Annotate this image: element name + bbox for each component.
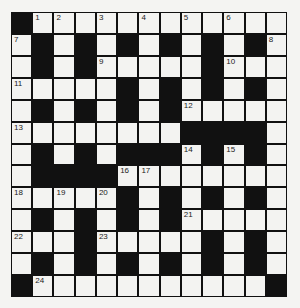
grid-cell[interactable]: 15 — [224, 145, 243, 165]
grid-cell[interactable]: 23 — [97, 232, 116, 252]
grid-cell[interactable]: 20 — [97, 188, 116, 208]
grid-cell[interactable] — [246, 101, 265, 121]
grid-cell[interactable] — [54, 145, 73, 165]
grid-cell[interactable] — [54, 210, 73, 230]
grid-cell[interactable] — [161, 276, 180, 296]
grid-cell[interactable] — [12, 145, 31, 165]
grid-cell[interactable] — [182, 276, 201, 296]
grid-cell[interactable] — [54, 57, 73, 77]
grid-cell[interactable] — [33, 123, 52, 143]
grid-cell[interactable] — [267, 79, 286, 99]
grid-cell[interactable] — [182, 188, 201, 208]
grid-cell[interactable]: 11 — [12, 79, 31, 99]
grid-cell[interactable] — [246, 57, 265, 77]
grid-cell[interactable] — [54, 254, 73, 274]
grid-cell[interactable] — [224, 35, 243, 55]
grid-cell[interactable]: 13 — [12, 123, 31, 143]
grid-cell[interactable] — [139, 123, 158, 143]
grid-cell[interactable] — [118, 276, 137, 296]
grid-cell[interactable] — [118, 123, 137, 143]
grid-cell[interactable]: 9 — [97, 57, 116, 77]
grid-cell[interactable] — [182, 254, 201, 274]
grid-cell[interactable] — [139, 101, 158, 121]
grid-cell[interactable]: 22 — [12, 232, 31, 252]
grid-cell[interactable] — [224, 188, 243, 208]
grid-cell[interactable] — [139, 35, 158, 55]
grid-cell[interactable] — [161, 123, 180, 143]
grid-cell[interactable] — [267, 254, 286, 274]
grid-cell[interactable] — [118, 57, 137, 77]
grid-cell[interactable] — [224, 166, 243, 186]
grid-cell[interactable]: 1 — [33, 13, 52, 33]
grid-cell[interactable] — [267, 145, 286, 165]
grid-cell[interactable] — [267, 188, 286, 208]
grid-cell[interactable] — [203, 166, 222, 186]
grid-cell[interactable] — [161, 166, 180, 186]
grid-cell[interactable] — [12, 254, 31, 274]
grid-cell[interactable] — [139, 254, 158, 274]
grid-cell[interactable]: 19 — [54, 188, 73, 208]
grid-cell[interactable]: 4 — [139, 13, 158, 33]
grid-cell[interactable] — [12, 166, 31, 186]
grid-cell[interactable] — [203, 276, 222, 296]
grid-cell[interactable] — [54, 101, 73, 121]
grid-cell[interactable] — [76, 123, 95, 143]
grid-cell[interactable] — [224, 232, 243, 252]
grid-cell[interactable]: 3 — [97, 13, 116, 33]
grid-cell[interactable] — [182, 79, 201, 99]
grid-cell[interactable] — [97, 123, 116, 143]
grid-cell[interactable]: 7 — [12, 35, 31, 55]
grid-cell[interactable] — [267, 166, 286, 186]
grid-cell[interactable] — [12, 57, 31, 77]
grid-cell[interactable]: 18 — [12, 188, 31, 208]
grid-cell[interactable] — [246, 210, 265, 230]
grid-cell[interactable] — [224, 79, 243, 99]
grid-cell[interactable] — [139, 276, 158, 296]
grid-cell[interactable]: 14 — [182, 145, 201, 165]
grid-cell[interactable] — [33, 232, 52, 252]
grid-cell[interactable] — [224, 101, 243, 121]
grid-cell[interactable]: 16 — [118, 166, 137, 186]
grid-cell[interactable] — [267, 232, 286, 252]
grid-cell[interactable] — [97, 254, 116, 274]
grid-cell[interactable] — [76, 276, 95, 296]
grid-cell[interactable] — [267, 13, 286, 33]
grid-cell[interactable] — [224, 210, 243, 230]
grid-cell[interactable] — [12, 101, 31, 121]
grid-cell[interactable] — [224, 254, 243, 274]
grid-cell[interactable] — [203, 210, 222, 230]
grid-cell[interactable]: 8 — [267, 35, 286, 55]
grid-cell[interactable] — [54, 79, 73, 99]
grid-cell[interactable] — [182, 57, 201, 77]
grid-cell[interactable]: 5 — [182, 13, 201, 33]
grid-cell[interactable]: 17 — [139, 166, 158, 186]
grid-cell[interactable] — [12, 210, 31, 230]
grid-cell[interactable]: 2 — [54, 13, 73, 33]
grid-cell[interactable] — [161, 13, 180, 33]
grid-cell[interactable] — [97, 210, 116, 230]
grid-cell[interactable] — [54, 35, 73, 55]
grid-cell[interactable] — [161, 232, 180, 252]
grid-cell[interactable] — [139, 232, 158, 252]
grid-cell[interactable]: 24 — [33, 276, 52, 296]
grid-cell[interactable] — [118, 13, 137, 33]
grid-cell[interactable] — [267, 101, 286, 121]
grid-cell[interactable] — [182, 35, 201, 55]
grid-cell[interactable]: 6 — [224, 13, 243, 33]
grid-cell[interactable] — [76, 188, 95, 208]
grid-cell[interactable] — [33, 79, 52, 99]
grid-cell[interactable] — [139, 79, 158, 99]
grid-cell[interactable] — [97, 79, 116, 99]
grid-cell[interactable] — [33, 188, 52, 208]
grid-cell[interactable] — [54, 123, 73, 143]
grid-cell[interactable] — [182, 166, 201, 186]
grid-cell[interactable] — [97, 35, 116, 55]
grid-cell[interactable] — [267, 123, 286, 143]
grid-cell[interactable] — [139, 188, 158, 208]
grid-cell[interactable] — [203, 13, 222, 33]
grid-cell[interactable] — [246, 13, 265, 33]
grid-cell[interactable] — [203, 101, 222, 121]
grid-cell[interactable] — [246, 166, 265, 186]
grid-cell[interactable] — [76, 79, 95, 99]
grid-cell[interactable] — [182, 232, 201, 252]
